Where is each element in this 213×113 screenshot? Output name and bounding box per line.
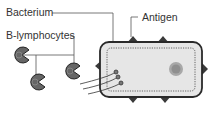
antigen-label: Antigen	[142, 12, 178, 23]
bacterium-label: Bacterium	[6, 7, 53, 18]
antigen-leader-line	[131, 17, 138, 37]
bacterium-cell	[100, 42, 202, 97]
b-lymphocyte	[66, 63, 80, 79]
b-lymphocyte	[31, 74, 45, 90]
b-lymphocytes-label: B-lymphocytes	[6, 30, 75, 41]
